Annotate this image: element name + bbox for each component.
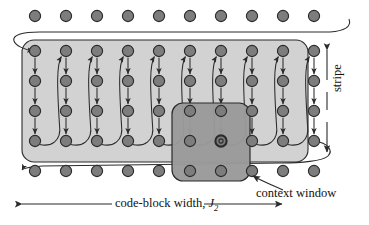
codeblock-width-subscript: 2 bbox=[214, 203, 218, 213]
context-window-region bbox=[172, 103, 250, 181]
context-window-label: context window bbox=[256, 186, 336, 201]
codeblock-width-label: code-block width, J2 bbox=[115, 196, 218, 213]
figure-canvas: stripe context window code-block width, … bbox=[0, 0, 369, 225]
stripe-label: stripe bbox=[330, 64, 345, 92]
codeblock-width-text: code-block width, bbox=[115, 196, 208, 210]
